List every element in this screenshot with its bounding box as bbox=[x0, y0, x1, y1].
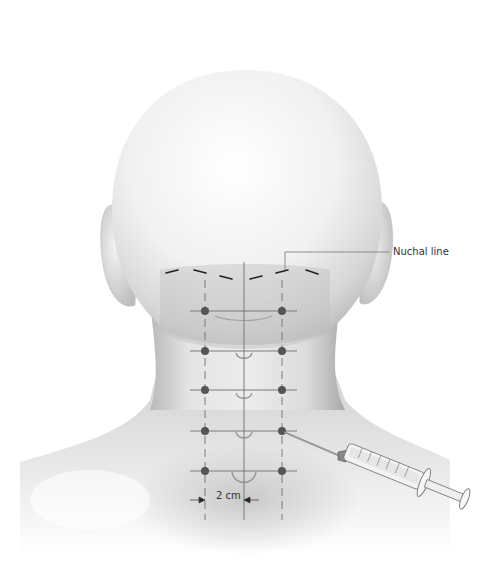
nuchal-line-label: Nuchal line bbox=[393, 246, 449, 257]
scale-label: 2 cm bbox=[216, 490, 241, 501]
neck-injection-illustration bbox=[0, 0, 503, 579]
occipital-shade bbox=[160, 264, 330, 349]
